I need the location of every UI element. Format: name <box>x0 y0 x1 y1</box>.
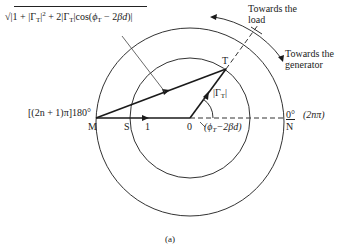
formula-leader <box>122 36 165 92</box>
figure-caption: (a) <box>165 234 175 245</box>
sqrt-vinculum <box>14 6 147 7</box>
unit-label: 1 <box>145 121 150 132</box>
right-angle-rad-label: (2nπ) <box>303 109 325 120</box>
point-t-label: T <box>222 55 228 66</box>
angle-arc <box>203 99 213 118</box>
angle-label: (ϕT−2βd) <box>204 121 241 136</box>
towards-generator-label: Towards the generator <box>285 48 334 70</box>
towards-load-arrow-icon <box>210 14 217 20</box>
point-m-label: M <box>88 121 97 132</box>
magnitude-formula: √|1 + |ΓT|2 + 2|ΓT|cos(ϕT − 2βd)| <box>5 8 133 26</box>
right-angle-deg-label: 0° <box>286 109 295 120</box>
towards-load-label: Towards the load <box>248 3 297 25</box>
point-n-label: N <box>286 121 293 132</box>
gamma-t-label: |ΓT| <box>213 87 227 102</box>
left-angle-label: [(2n + 1)π]180° <box>28 107 91 118</box>
point-s-label: S <box>124 121 130 132</box>
origin-label: 0 <box>187 121 192 132</box>
